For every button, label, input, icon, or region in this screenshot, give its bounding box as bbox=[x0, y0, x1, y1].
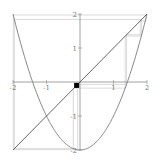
x-tick-label: -2 bbox=[10, 84, 17, 92]
x-tick-label: 1 bbox=[111, 84, 115, 92]
y-tick-label: 1 bbox=[73, 45, 77, 53]
y-tick-label: 2 bbox=[73, 11, 77, 19]
y-tick-label: -1 bbox=[70, 113, 77, 121]
start-point-marker bbox=[74, 83, 79, 88]
x-tick-label: 2 bbox=[145, 84, 149, 92]
x-tick-label: -1 bbox=[43, 84, 50, 92]
cobweb-chart: -2-112-2-112 bbox=[0, 0, 159, 163]
